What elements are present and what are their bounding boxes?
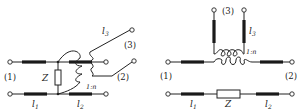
line-l1-label: l1 [32,99,39,110]
terminal-3b [132,59,136,63]
impedance-label: Z [224,99,232,109]
impedance-z [217,90,240,98]
line-l2-label: l2 [265,99,272,110]
terminal-2-bottom [290,92,294,96]
line-l1-label: l1 [190,99,197,110]
right-diagram: (3) (1) (2) 1:n Z l1 l2 l3 [160,6,297,110]
transformer-primary-coil [58,51,82,94]
line-l3-label: l3 [102,26,109,37]
ratio-label: 1:n [86,83,97,91]
transformer-secondary-coil [90,52,93,76]
impedance-label: Z [41,73,49,83]
transformer-primary-coil [214,57,252,65]
port-1-label: (1) [4,72,16,82]
port-3-label: (3) [222,6,234,16]
circuit-diagrams: (1) (2) (3) Z 1:n l1 l2 l3 [0,0,302,112]
impedance-z [55,70,61,85]
line-l3-label: l3 [249,26,256,37]
terminal-3a [212,8,216,12]
terminal-2-top [290,60,294,64]
terminal-1-top [8,60,12,64]
terminal-2a [104,60,108,64]
terminal-1-bottom [166,92,170,96]
port-1-label: (1) [160,71,172,81]
left-diagram: (1) (2) (3) Z 1:n l1 l2 l3 [4,26,136,110]
terminal-1-top [166,60,170,64]
terminal-2b [104,92,108,96]
terminal-3b [242,8,246,12]
transformer-secondary-coil [214,50,244,56]
ratio-label: 1:n [246,48,257,56]
line-l2-label: l2 [77,99,84,110]
terminal-3a [130,28,134,32]
port-3-label: (3) [124,40,136,50]
port-2-label: (2) [117,72,129,82]
terminal-1-bottom [8,92,12,96]
port-2-label: (2) [285,71,297,81]
